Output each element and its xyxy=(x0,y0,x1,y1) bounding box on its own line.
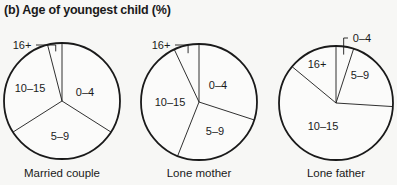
pie-charts: 0–45–910–1516+Married couple0–45–910–151… xyxy=(0,0,397,185)
slice-label: 10–15 xyxy=(155,96,186,108)
slice-label: 10–15 xyxy=(308,120,339,132)
slice-label: 5–9 xyxy=(51,130,69,142)
slice-label: 0–4 xyxy=(209,79,227,91)
pie-caption: Married couple xyxy=(24,167,100,179)
slice-label: 5–9 xyxy=(351,69,369,81)
slice-label: 16+ xyxy=(13,39,32,51)
slice-label: 0–4 xyxy=(76,86,94,98)
slice-label: 10–15 xyxy=(15,82,46,94)
slice-label: 16+ xyxy=(308,58,327,70)
slice-label: 5–9 xyxy=(206,125,224,137)
slice-label: 16+ xyxy=(152,39,171,51)
pie-lone-father: 0–45–910–1516+Lone father xyxy=(279,32,393,179)
pie-lone-mother: 0–45–910–1516+Lone mother xyxy=(141,39,257,179)
pie-caption: Lone mother xyxy=(167,167,232,179)
pie-married-couple: 0–45–910–1516+Married couple xyxy=(4,39,120,179)
pie-caption: Lone father xyxy=(307,167,365,179)
slice-label: 0–4 xyxy=(353,32,371,44)
